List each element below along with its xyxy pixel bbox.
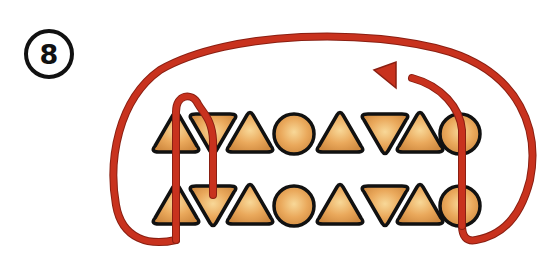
circle-bead <box>274 114 314 154</box>
triangle-bead <box>317 113 363 153</box>
beading-diagram: 8 <box>0 0 556 266</box>
circle-bead <box>274 186 314 226</box>
bottom-row <box>153 185 480 227</box>
bead-rows <box>153 113 480 227</box>
top-row <box>153 113 480 155</box>
triangle-bead <box>317 185 363 225</box>
diagram-canvas <box>0 0 556 266</box>
arrow-head-icon <box>374 62 396 88</box>
